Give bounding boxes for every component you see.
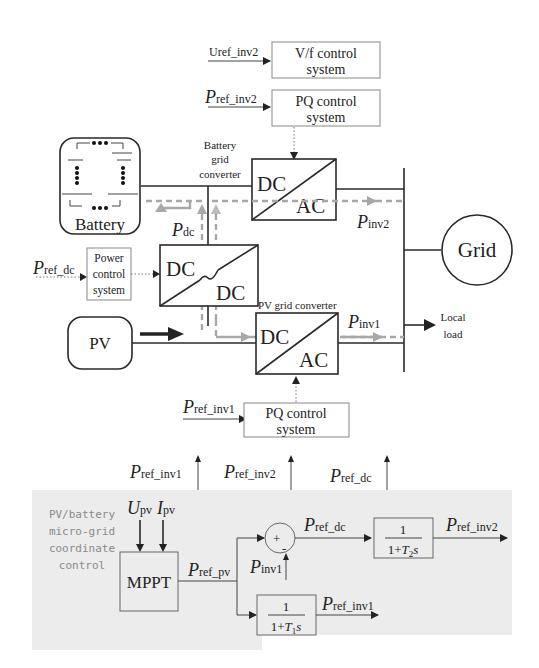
output-references: Pref_inv1 Pref_inv2 Pref_dc xyxy=(129,455,390,490)
tf2-numerator: 1 xyxy=(400,522,407,537)
tf1-denominator: 1+T1s xyxy=(271,619,302,636)
coordinator-title-line4: control xyxy=(59,559,105,572)
pdc-arrowhead-1 xyxy=(197,204,207,214)
local-load-label: Local xyxy=(440,311,465,323)
power-control-text2: control xyxy=(93,268,126,280)
pv-grid-converter: DC AC xyxy=(256,313,338,374)
pinv2-label: Pinv2 xyxy=(356,212,389,232)
pdc-label: Pdc xyxy=(171,220,194,240)
converter-ac-label: AC xyxy=(296,194,325,218)
vf-control-text2: system xyxy=(307,62,346,77)
mppt-label: MPPT xyxy=(127,573,172,592)
output-arrowhead-3 xyxy=(384,455,390,462)
pref-dc-arrowhead xyxy=(80,273,87,281)
pq1-control-text2: system xyxy=(277,422,316,437)
grid-label: Grid xyxy=(458,238,497,262)
battery-label: Battery xyxy=(75,215,126,234)
local-load-arrowhead xyxy=(424,319,436,331)
coordinator-panel-right xyxy=(250,490,512,635)
pq2-control-text: PQ control xyxy=(295,94,356,109)
power-control-text1: Power xyxy=(94,252,124,264)
tf1-numerator: 1 xyxy=(283,599,290,614)
dcdc-left-label: DC xyxy=(166,257,195,281)
coordinator-title-line1: PV/battery xyxy=(49,508,116,521)
microgrid-diagram: Uref_inv2 V/f control system Pref_inv2 P… xyxy=(0,0,539,668)
pv-source: PV xyxy=(68,317,132,369)
output-arrowhead-1 xyxy=(195,455,201,462)
uref-inv2-label: Uref_inv2 xyxy=(209,45,258,59)
output-arrowhead-2 xyxy=(288,455,294,462)
battery: Battery xyxy=(60,138,140,234)
pq1-control-block: Pref_inv1 PQ control system xyxy=(182,376,349,437)
pq1-signal-arrowhead xyxy=(292,376,300,384)
dc-dc-converter: DC DC xyxy=(160,245,258,306)
dcdc-right-label: DC xyxy=(216,281,245,305)
local-load-label2: load xyxy=(444,328,463,340)
pv-power-arrowhead xyxy=(168,327,184,341)
power-control-block: Pref_dc Power control system xyxy=(32,248,160,300)
output-pref-inv1: Pref_inv1 xyxy=(129,462,182,482)
converter-dc-label: DC xyxy=(257,172,286,196)
grid: Grid xyxy=(442,215,512,285)
power-control-text3: system xyxy=(93,284,125,297)
vf-control-text: V/f control xyxy=(295,46,357,61)
pv-converter-caption: PV grid converter xyxy=(258,299,337,311)
output-pref-dc: Pref_dc xyxy=(329,466,372,486)
coordinator-title-line3: coordinate xyxy=(49,542,115,555)
sum-plus-sign: + xyxy=(273,531,280,546)
coordinator-title-line2: micro-grid xyxy=(49,525,115,538)
pdc-arrowhead-2 xyxy=(211,204,221,214)
battery-converter-caption: Battery xyxy=(204,139,237,151)
pinv1-label: Pinv1 xyxy=(347,312,380,332)
battery-converter-caption3: converter xyxy=(199,168,241,180)
power-control-signal-arrowhead xyxy=(153,270,160,278)
battery-converter-caption2: grid xyxy=(211,153,229,165)
battery-grid-converter: DC AC xyxy=(252,159,336,220)
pv-label: PV xyxy=(89,334,111,353)
output-pref-inv2: Pref_inv2 xyxy=(223,462,276,482)
vf-control-block: Uref_inv2 V/f control system xyxy=(208,42,380,78)
pref-inv2-input-label: Pref_inv2 xyxy=(204,87,257,107)
pq2-control-text2: system xyxy=(307,110,346,125)
pv-converter-ac-label: AC xyxy=(299,348,328,372)
pref-inv1-input-label: Pref_inv1 xyxy=(182,397,235,417)
pq1-control-text: PQ control xyxy=(265,406,326,421)
pv-converter-dc-label: DC xyxy=(260,325,289,349)
pref-dc-input-label: Pref_dc xyxy=(32,258,75,278)
tf2-denominator: 1+T2s xyxy=(388,542,419,559)
